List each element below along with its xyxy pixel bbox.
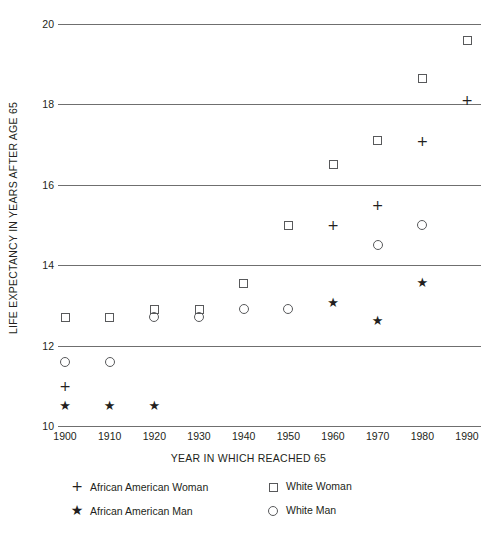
gridline [58, 104, 481, 105]
data-point-square [329, 160, 338, 169]
y-axis-tick: 20 [30, 19, 54, 29]
data-point-star: ★ [58, 399, 72, 413]
data-point-star: ★ [371, 314, 385, 328]
data-point-circle [239, 304, 249, 314]
y-axis-tick: 14 [30, 260, 54, 270]
x-axis-tick-label: 1980 [399, 430, 445, 442]
x-axis-tick-label: 1950 [265, 430, 311, 442]
legend-label: African American Man [90, 505, 193, 517]
legend-label: White Man [286, 504, 336, 516]
data-point-square [105, 313, 114, 322]
data-point-square [463, 36, 472, 45]
data-point-square [150, 305, 159, 314]
data-point-square [239, 279, 248, 288]
square-icon [269, 483, 278, 492]
plus-marker-icon: + [68, 480, 86, 493]
gridline [58, 265, 481, 266]
data-point-star: ★ [415, 276, 429, 290]
data-point-square [418, 74, 427, 83]
data-point-square [373, 136, 382, 145]
circle-icon [268, 506, 278, 516]
x-axis-tick-label: 1910 [87, 430, 133, 442]
y-axis-tick: 18 [30, 99, 54, 109]
legend-item: White Woman [264, 480, 352, 492]
x-axis-tick-label: 1930 [176, 430, 222, 442]
x-axis-label: YEAR IN WHICH REACHED 65 [0, 452, 497, 464]
data-point-plus: + [58, 379, 72, 393]
data-point-star: ★ [103, 399, 117, 413]
y-axis-tick-label: 18 [32, 99, 54, 109]
gridline [58, 346, 481, 347]
plus-icon: + [71, 478, 83, 494]
y-axis-tick-label: 12 [32, 341, 54, 351]
data-point-circle [194, 312, 204, 322]
star-marker-icon: ★ [68, 504, 86, 517]
gridline [58, 24, 481, 25]
data-point-circle [373, 240, 383, 250]
x-axis-tick-label: 1920 [131, 430, 177, 442]
data-point-circle [283, 304, 293, 314]
y-axis-tick: 16 [30, 180, 54, 190]
data-point-square [195, 305, 204, 314]
star-icon: ★ [71, 502, 84, 518]
x-axis-tick-label: 1900 [42, 430, 88, 442]
chart-legend: +African American WomanWhite Woman★Afric… [68, 480, 448, 526]
plot-area: 201816141210 190019101920193019401950196… [0, 0, 497, 440]
data-point-square [284, 221, 293, 230]
data-point-plus: + [371, 198, 385, 212]
data-point-circle [60, 357, 70, 367]
data-point-square [61, 313, 70, 322]
gridline [58, 185, 481, 186]
data-point-circle [149, 312, 159, 322]
x-axis-tick-label: 1960 [310, 430, 356, 442]
x-axis-tick-label: 1970 [355, 430, 401, 442]
legend-label: White Woman [286, 480, 352, 492]
circle-marker-icon [264, 504, 282, 516]
data-point-plus: + [415, 134, 429, 148]
legend-item: ★African American Man [68, 504, 193, 517]
y-axis-tick-label: 20 [32, 19, 54, 29]
data-point-circle [417, 220, 427, 230]
data-point-circle [105, 357, 115, 367]
legend-item: +African American Woman [68, 480, 208, 493]
data-point-star: ★ [147, 399, 161, 413]
x-axis-tick-label: 1990 [444, 430, 490, 442]
y-axis-tick-label: 16 [32, 180, 54, 190]
data-point-plus: + [326, 218, 340, 232]
legend-item: White Man [264, 504, 336, 516]
square-marker-icon [264, 480, 282, 492]
y-axis-tick-label: 14 [32, 260, 54, 270]
data-point-star: ★ [326, 296, 340, 310]
x-axis-tick-label: 1940 [221, 430, 267, 442]
figure-caption [0, 532, 497, 541]
y-axis-tick: 12 [30, 341, 54, 351]
legend-label: African American Woman [90, 481, 208, 493]
figure: LIFE EXPECTANCY IN YEARS AFTER AGE 65 20… [0, 0, 497, 541]
gridline [58, 426, 481, 427]
